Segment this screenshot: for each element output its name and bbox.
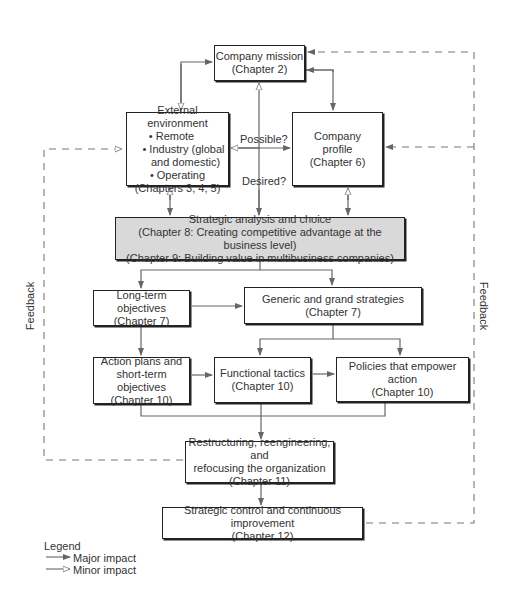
node-restructuring: Restructuring, reengineering, and refocu… [185, 441, 334, 483]
node-title: Functional tactics [220, 367, 305, 380]
label-feedback-right: Feedback [478, 282, 490, 330]
node-title-line1: Company [314, 130, 361, 143]
node-line2: short-term objectives [94, 368, 189, 394]
node-title-line2: profile [323, 143, 353, 156]
label-desired: Desired? [242, 175, 286, 187]
node-title: Company mission [216, 50, 303, 63]
node-title: Policies that empower action [337, 360, 468, 386]
bullet-industry-cont: and domestic) [151, 156, 220, 169]
node-line3: (Chapter 9: Building value in multibusin… [126, 252, 394, 265]
legend-minor-label: Minor impact [73, 564, 136, 576]
node-chapter: (Chapter 10) [372, 386, 434, 399]
legend: Legend Major impact Minor impact [44, 540, 136, 576]
node-line2: (Chapter 8: Creating competitive advanta… [116, 226, 404, 252]
node-chapter: (Chapter 12) [232, 530, 294, 543]
bullet-remote: • Remote [149, 130, 194, 143]
legend-major: Major impact [44, 552, 136, 564]
node-generic-grand-strategies: Generic and grand strategies (Chapter 7) [244, 287, 422, 324]
node-long-term-objectives: Long-term objectives (Chapter 7) [93, 290, 190, 326]
label-feedback-left: Feedback [24, 282, 36, 330]
node-chapter: (Chapters 3, 4, 5) [135, 182, 221, 195]
node-title: Long-term objectives [94, 289, 189, 315]
node-line1: Action plans and [101, 355, 182, 368]
node-strategic-control: Strategic control and continuous improve… [162, 507, 363, 539]
node-chapter: (Chapter 11) [229, 475, 290, 488]
legend-major-label: Major impact [73, 552, 136, 564]
node-chapter: (Chapter 10) [111, 394, 173, 407]
node-chapter: (Chapter 7) [305, 306, 361, 319]
node-company-mission: Company mission (Chapter 2) [214, 45, 305, 81]
node-policies: Policies that empower action (Chapter 10… [336, 357, 469, 402]
node-title: Strategic analysis and choice [189, 213, 331, 226]
legend-minor: Minor impact [44, 564, 136, 576]
node-chapter: (Chapter 10) [232, 380, 294, 393]
node-functional-tactics: Functional tactics (Chapter 10) [214, 357, 311, 403]
node-action-plans: Action plans and short-term objectives (… [93, 357, 190, 404]
node-title: Strategic control and continuous improve… [163, 504, 362, 530]
node-chapter: (Chapter 6) [310, 156, 366, 169]
node-title: Generic and grand strategies [262, 293, 404, 306]
node-external-environment: External environment • Remote • Industry… [126, 112, 229, 186]
node-line1: Restructuring, reengineering, and [186, 436, 333, 462]
label-possible: Possible? [240, 133, 288, 145]
bullet-industry: • Industry (global [142, 143, 224, 156]
legend-title: Legend [44, 540, 136, 552]
node-title: External environment [127, 104, 228, 130]
node-strategic-analysis: Strategic analysis and choice (Chapter 8… [115, 217, 405, 260]
node-chapter: (Chapter 7) [114, 315, 170, 328]
node-chapter: (Chapter 2) [232, 63, 288, 76]
node-line2: refocusing the organization [193, 462, 325, 475]
node-company-profile: Company profile (Chapter 6) [292, 112, 383, 186]
bullet-operating: • Operating [150, 169, 205, 182]
